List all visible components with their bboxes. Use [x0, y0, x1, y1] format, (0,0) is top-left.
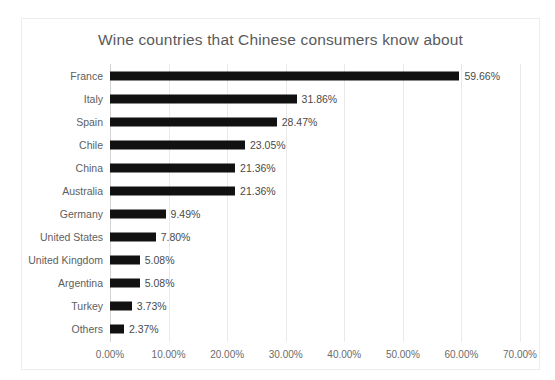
bar: [110, 301, 132, 310]
bar: [110, 94, 297, 103]
x-tick-label: 50.00%: [386, 349, 420, 360]
bar: [110, 163, 235, 172]
chart-figure: Wine countries that Chinese consumers kn…: [21, 18, 540, 370]
bar-row: Germany9.49%: [110, 202, 520, 225]
bar-value-label: 23.05%: [245, 139, 286, 151]
x-tick-label: 30.00%: [269, 349, 303, 360]
category-label: Germany: [60, 208, 103, 220]
gridline: [520, 64, 521, 342]
category-label: Australia: [62, 185, 103, 197]
bar: [110, 232, 156, 241]
bar-value-label: 31.86%: [297, 93, 338, 105]
bar-series: France59.66%Italy31.86%Spain28.47%Chile2…: [110, 64, 520, 342]
bar: [110, 209, 166, 218]
bar-value-label: 2.37%: [124, 323, 159, 335]
category-label: Turkey: [71, 300, 103, 312]
category-label: Argentina: [58, 277, 103, 289]
category-label: Italy: [84, 93, 103, 105]
bar-row: Argentina5.08%: [110, 271, 520, 294]
x-tick-label: 70.00%: [503, 349, 537, 360]
bar-row: Australia21.36%: [110, 179, 520, 202]
bar: [110, 255, 140, 264]
bar-value-label: 3.73%: [132, 300, 167, 312]
bar-value-label: 21.36%: [235, 162, 276, 174]
bar: [110, 278, 140, 287]
x-tick-label: 10.00%: [152, 349, 186, 360]
category-label: Chile: [79, 139, 103, 151]
bar: [110, 117, 277, 126]
category-label: France: [70, 70, 103, 82]
x-tick-label: 0.00%: [96, 349, 124, 360]
bar-row: Spain28.47%: [110, 110, 520, 133]
category-label: China: [76, 162, 103, 174]
bar-value-label: 5.08%: [140, 277, 175, 289]
bar: [110, 71, 459, 80]
bar: [110, 324, 124, 333]
x-axis-tick-labels: 0.00%10.00%20.00%30.00%40.00%50.00%60.00…: [110, 349, 520, 365]
x-tick-label: 40.00%: [327, 349, 361, 360]
x-tick-label: 20.00%: [210, 349, 244, 360]
bar-row: China21.36%: [110, 156, 520, 179]
category-label: Spain: [76, 116, 103, 128]
chart-title: Wine countries that Chinese consumers kn…: [22, 31, 539, 49]
bar-value-label: 9.49%: [166, 208, 201, 220]
bar-row: France59.66%: [110, 64, 520, 87]
bar-value-label: 59.66%: [459, 70, 500, 82]
bar-row: Italy31.86%: [110, 87, 520, 110]
x-tick-label: 60.00%: [444, 349, 478, 360]
bar-value-label: 21.36%: [235, 185, 276, 197]
bar-row: United States7.80%: [110, 225, 520, 248]
bar-row: Chile23.05%: [110, 133, 520, 156]
plot-area: France59.66%Italy31.86%Spain28.47%Chile2…: [110, 64, 520, 342]
bar-row: Others2.37%: [110, 317, 520, 340]
category-label: Others: [71, 323, 103, 335]
category-label: United States: [40, 231, 103, 243]
category-label: United Kingdom: [28, 254, 103, 266]
bar-row: Turkey3.73%: [110, 294, 520, 317]
bar-value-label: 7.80%: [156, 231, 191, 243]
bar-row: United Kingdom5.08%: [110, 248, 520, 271]
bar-value-label: 28.47%: [277, 116, 318, 128]
bar: [110, 140, 245, 149]
bar: [110, 186, 235, 195]
bar-value-label: 5.08%: [140, 254, 175, 266]
